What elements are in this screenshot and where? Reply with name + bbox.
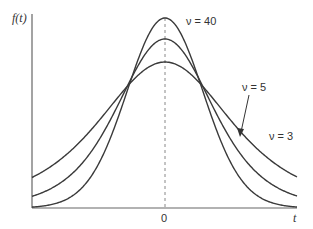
y-axis-label: f(t) [12,12,27,24]
t-distribution-chart [0,0,313,229]
arrow-head-icon [237,128,244,137]
label-nu-40: ν = 40 [186,16,216,27]
x-axis-label: t [293,212,296,224]
label-nu-5: ν = 5 [242,82,266,93]
x-tick-zero: 0 [161,213,167,224]
curve-nu-40 [32,18,297,207]
label-nu-3: ν = 3 [269,131,293,142]
nu5-arrow-line [241,95,249,132]
